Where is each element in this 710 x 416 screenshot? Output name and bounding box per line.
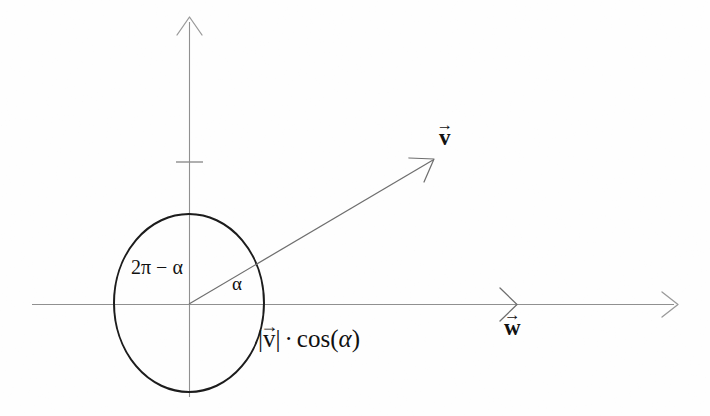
vector-w-label: → w [504,316,521,339]
arrow-accent-icon: → [436,117,453,134]
vector-projection-figure: → v → w α 2π − α |→v|·cos(α) [0,0,710,416]
vector-v-line [189,160,433,304]
arrow-accent-icon: → [260,317,278,335]
cosine-function-close: ) [352,325,360,352]
projection-length-label: |→v|·cos(α) [258,326,360,351]
vector-v-label: → v [439,126,451,149]
figure-canvas [0,0,710,416]
angle-alpha-label: α [232,274,242,293]
vector-v-group [189,158,434,304]
reflex-angle-label: 2π − α [131,257,183,277]
vector-v-accent-stack: → v [439,126,451,149]
vector-w-accent-stack: → w [504,316,521,339]
projection-vector-accent-stack: →v [263,326,276,351]
cosine-argument-alpha: α [339,325,352,352]
arrow-accent-icon: → [504,307,521,324]
multiplication-dot-icon: · [281,325,297,352]
cosine-function-open: cos( [297,325,339,352]
